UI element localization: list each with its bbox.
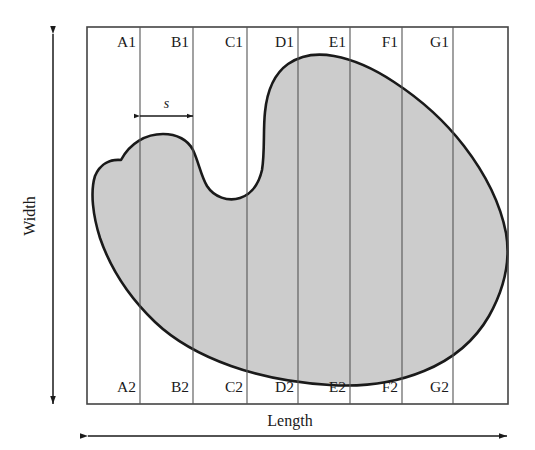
column-label-c2: C2 [225, 378, 243, 395]
width-axis-label: Width [21, 196, 38, 235]
column-label-b2: B2 [171, 378, 189, 395]
hide-outline-shape [93, 55, 508, 386]
column-label-a1: A1 [117, 33, 136, 50]
width-axis: Width [21, 34, 53, 404]
column-label-a2: A2 [117, 378, 136, 395]
strip-width-label: s [164, 96, 170, 111]
column-label-b1: B1 [171, 33, 189, 50]
column-label-f1: F1 [382, 33, 398, 50]
hide-segmentation-diagram: A1B1C1D1E1F1G1 A2B2C2D2E2F2G2 s Length W… [0, 0, 535, 450]
strip-width-dimension: s [140, 96, 193, 116]
column-label-g1: G1 [430, 33, 449, 50]
column-label-e1: E1 [329, 33, 346, 50]
length-axis-label: Length [267, 412, 312, 430]
column-label-f2: F2 [382, 378, 398, 395]
column-label-g2: G2 [430, 378, 449, 395]
column-label-c1: C1 [225, 33, 243, 50]
top-column-labels: A1B1C1D1E1F1G1 [117, 33, 449, 50]
column-label-e2: E2 [329, 378, 346, 395]
column-label-d2: D2 [275, 378, 294, 395]
length-axis: Length [88, 412, 507, 436]
column-label-d1: D1 [275, 33, 294, 50]
